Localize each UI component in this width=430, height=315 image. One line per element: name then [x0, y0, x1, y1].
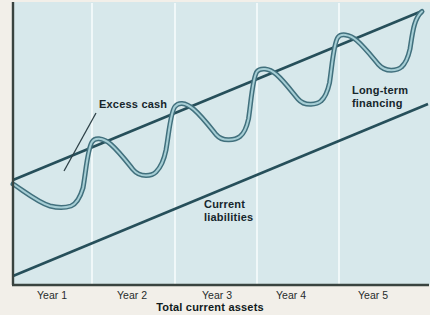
current-liabilities-label: Current liabilities	[204, 198, 253, 223]
x-tick-year-1: Year 1	[37, 289, 67, 301]
excess-cash-label: Excess cash	[99, 98, 167, 111]
x-tick-year-4: Year 4	[276, 289, 306, 301]
chart-canvas	[0, 0, 430, 315]
x-tick-year-3: Year 3	[202, 289, 232, 301]
long-term-financing-label-line2: financing	[352, 97, 408, 110]
current-liabilities-label-line1: Current	[204, 198, 253, 211]
current-liabilities-label-line2: liabilities	[204, 211, 253, 224]
x-tick-year-5: Year 5	[358, 289, 388, 301]
plot-area	[12, 2, 430, 285]
long-term-financing-label: Long-term financing	[352, 84, 408, 109]
x-tick-year-2: Year 2	[117, 289, 147, 301]
financing-policy-figure: Excess cash Long-term financing Current …	[0, 0, 430, 315]
x-axis-title: Total current assets	[156, 301, 264, 313]
long-term-financing-label-line1: Long-term	[352, 84, 408, 97]
